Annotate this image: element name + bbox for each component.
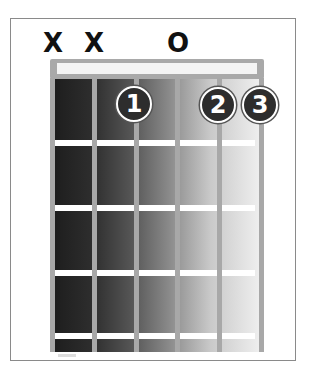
string-6 bbox=[50, 78, 55, 352]
string-3 bbox=[175, 78, 180, 352]
finger-dot-2: 2 bbox=[200, 87, 236, 123]
fret-4 bbox=[55, 333, 255, 339]
scan-artifact bbox=[58, 354, 76, 357]
fretboard bbox=[50, 78, 264, 352]
fret-2 bbox=[55, 205, 255, 211]
nut-highlight bbox=[57, 63, 257, 74]
finger-dot-3: 3 bbox=[242, 87, 278, 123]
fret-1 bbox=[55, 140, 255, 146]
finger-dot-1: 1 bbox=[116, 86, 152, 122]
string-5 bbox=[92, 78, 97, 352]
muted-marker-string-6: X bbox=[38, 28, 68, 58]
muted-marker-string-5: X bbox=[79, 28, 109, 58]
fret-3 bbox=[55, 270, 255, 276]
open-marker-string-3: O bbox=[163, 28, 193, 58]
